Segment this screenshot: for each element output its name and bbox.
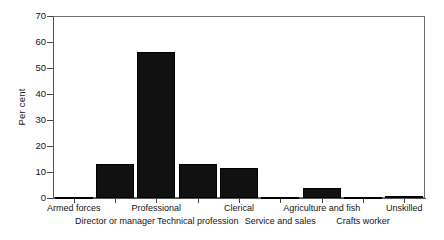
x-label-service-and-sales: Service and sales: [245, 216, 316, 227]
y-tick-label-50: 50: [2, 63, 46, 73]
y-tick-label-70: 70: [2, 11, 46, 21]
y-tick-label-0: 0: [2, 193, 46, 203]
x-label-director-or-manager: Director or manager: [75, 216, 155, 227]
x-label-unskilled: Unskilled: [386, 203, 423, 214]
bar-professional: [137, 52, 175, 198]
x-tick-5: [280, 199, 281, 203]
y-tick-label-60: 60: [2, 37, 46, 47]
x-label-agriculture-and-fish: Agriculture and fish: [283, 203, 360, 214]
y-tick-label-20: 20: [2, 141, 46, 151]
bar-unskilled: [385, 196, 423, 198]
x-label-armed-forces: Armed forces: [47, 203, 101, 214]
bar-technical-profession: [179, 164, 217, 198]
x-tick-1: [115, 199, 116, 203]
x-label-professional: Professional: [132, 203, 182, 214]
x-tick-7: [363, 199, 364, 203]
bar-chart: Per cent 0 10 20 30 40 50 60 70 Armed fo…: [0, 0, 444, 240]
bar-agriculture-and-fish: [303, 188, 341, 198]
x-label-technical-profession: Technical profession: [157, 216, 239, 227]
y-tick-label-40: 40: [2, 89, 46, 99]
bar-director-or-manager: [96, 164, 134, 198]
y-tick-label-10: 10: [2, 167, 46, 177]
x-label-crafts-worker: Crafts worker: [336, 216, 390, 227]
x-tick-3: [198, 199, 199, 203]
x-label-clerical: Clerical: [224, 203, 254, 214]
bar-clerical: [220, 168, 258, 198]
y-axis-line: [53, 16, 54, 199]
y-tick-label-30: 30: [2, 115, 46, 125]
